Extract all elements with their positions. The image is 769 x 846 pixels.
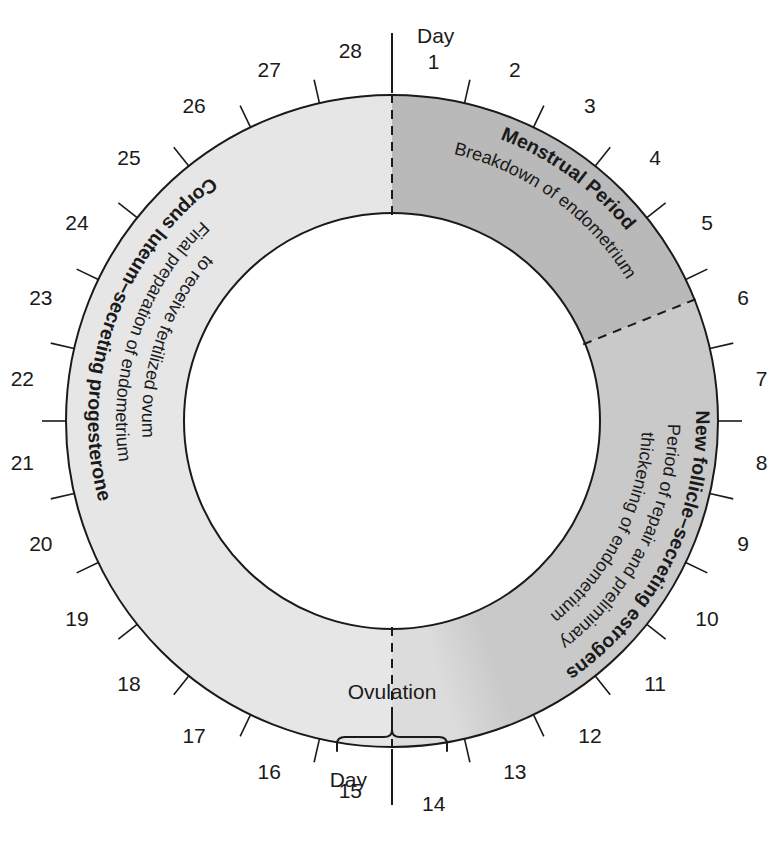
day-number-20: 20 [29,532,52,555]
day-word-top-label: Day [417,24,455,47]
day-tick-23 [51,343,74,348]
day-number-18: 18 [117,672,140,695]
day-number-1: 1 [428,50,440,73]
day-tick-24 [77,269,99,279]
day-tick-19 [118,624,137,639]
day-tick-7 [710,343,733,348]
day-number-27: 27 [257,58,280,81]
day-tick-3 [533,106,543,128]
day-number-10: 10 [695,607,718,630]
day-number-21: 21 [11,451,34,474]
day-tick-12 [595,676,610,695]
day-number-28: 28 [339,39,362,62]
day-tick-13 [533,715,543,737]
day-tick-16 [314,739,319,762]
day-tick-17 [240,715,250,737]
day-number-11: 11 [644,672,666,695]
day-number-22: 22 [11,367,34,390]
day-tick-14 [465,739,470,762]
day-number-5: 5 [701,211,713,234]
day-number-3: 3 [584,94,596,117]
day-number-12: 12 [578,724,601,747]
day-number-24: 24 [65,211,89,234]
day-number-7: 7 [756,367,768,390]
day-tick-27 [240,106,250,128]
day-number-6: 6 [737,286,749,309]
day-tick-28 [314,80,319,103]
day-tick-10 [686,562,708,572]
day-number-16: 16 [257,760,280,783]
day-tick-9 [710,494,733,499]
day-number-25: 25 [117,146,140,169]
day-tick-4 [595,147,610,166]
day-word-bottom-label: Day [330,768,368,791]
day-tick-6 [686,269,708,279]
day-number-26: 26 [182,94,205,117]
day-tick-11 [647,624,666,639]
day-number-19: 19 [65,607,88,630]
day-tick-18 [174,676,189,695]
cycle-chart-svg: 1234567891011121314151617181920212223242… [0,0,769,846]
day-number-14: 14 [422,792,446,815]
day-tick-21 [51,494,74,499]
day-number-4: 4 [649,146,661,169]
day-number-17: 17 [182,724,205,747]
inner-ring-outline [184,213,600,629]
day-number-13: 13 [503,760,526,783]
day-tick-25 [118,203,137,218]
day-tick-5 [647,203,666,218]
day-number-2: 2 [509,58,521,81]
day-tick-26 [174,147,189,166]
menstrual-cycle-diagram: 1234567891011121314151617181920212223242… [0,0,769,846]
day-number-23: 23 [29,286,52,309]
ovulation-label: Ovulation [348,680,437,703]
day-number-9: 9 [737,532,749,555]
day-tick-20 [77,562,99,572]
day-tick-2 [465,80,470,103]
day-number-8: 8 [756,451,768,474]
